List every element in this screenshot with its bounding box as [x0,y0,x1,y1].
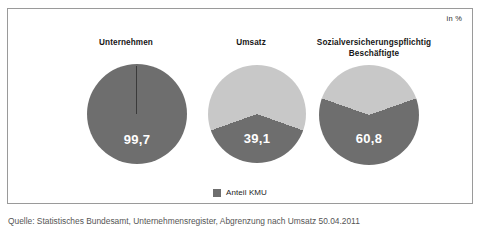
legend-swatch-icon [213,189,221,197]
pie-title-line-2: Beschäftigte [294,49,454,60]
pie-value-sozialversicherungspflichtig-beschaeftigte: 60,8 [319,131,419,146]
chart-legend: Anteil KMU [8,188,472,197]
pie-title-unternehmen: Unternehmen [51,38,201,49]
legend-label-anteil-kmu: Anteil KMU [226,188,267,197]
pie-title-sozialversicherungspflichtig-beschaeftigte: Sozialversicherungspflichtig Beschäftigt… [294,38,454,59]
source-note: Quelle: Statistisches Bundesamt, Unterne… [8,216,360,226]
chart-panel: in % Unternehmen 99,7 Umsatz 39,1 Sozial… [7,8,473,204]
pie-chart-umsatz: 39,1 [208,65,306,163]
pie-slice-divider [136,66,137,114]
pie-value-unternehmen: 99,7 [87,132,187,147]
pie-chart-unternehmen: 99,7 [87,64,187,164]
pie-title-line-1: Sozialversicherungspflichtig [294,38,454,49]
pie-value-umsatz: 39,1 [208,131,306,146]
pie-chart-sozialversicherungspflichtig-beschaeftigte: 60,8 [319,65,419,165]
unit-label: in % [447,14,462,23]
